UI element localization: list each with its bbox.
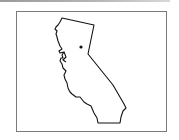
california-map [0, 0, 179, 140]
location-marker [79, 45, 82, 48]
california-outline [55, 18, 126, 123]
